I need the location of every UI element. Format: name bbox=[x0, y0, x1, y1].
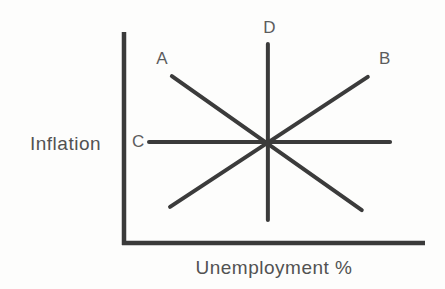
inflation-unemployment-diagram: ABCD Inflation Unemployment % bbox=[0, 0, 445, 289]
y-axis-label: Inflation bbox=[30, 133, 101, 155]
series-label-C: C bbox=[132, 132, 144, 151]
series-label-B: B bbox=[379, 49, 390, 68]
series-label-D: D bbox=[263, 18, 275, 37]
series-label-A: A bbox=[156, 49, 168, 68]
x-axis-label: Unemployment % bbox=[124, 257, 424, 279]
